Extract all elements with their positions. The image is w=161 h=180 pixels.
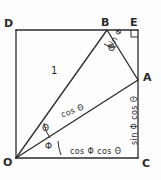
angle-label-theta-at-o: Θ xyxy=(42,124,49,133)
angle-label-theta-at-b: Θ xyxy=(108,44,115,53)
segment-label-ob-unit: 1 xyxy=(51,66,58,76)
segment-label-oc-cos-phi-cos-theta: cos Φ cos Θ xyxy=(70,148,122,156)
right-angle-icon xyxy=(131,30,138,37)
vertex-label-A: A xyxy=(143,72,152,83)
vertex-label-B: B xyxy=(101,17,110,28)
segment-label-ac-sin-phi-cos-theta: sin Φ cos Θ xyxy=(131,95,139,145)
angle-arc-phi-o xyxy=(58,141,61,155)
vertex-label-O: O xyxy=(3,157,13,168)
edge-OB xyxy=(16,30,107,158)
angle-label-phi-at-o: Φ xyxy=(45,142,52,151)
vertex-label-C: C xyxy=(142,158,150,169)
vertex-label-D: D xyxy=(4,18,13,29)
trigonometric-diagram-canvas: D B E A C O 1 sin Φ cos Θ sin Φ cos Θ co… xyxy=(0,0,161,180)
vertex-label-E: E xyxy=(130,17,138,28)
